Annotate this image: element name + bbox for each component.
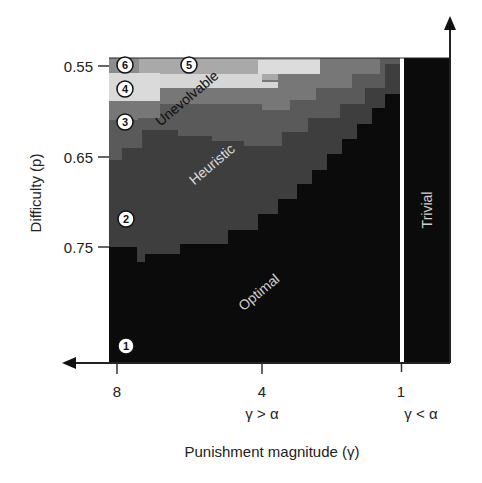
marker-2: 2 bbox=[118, 211, 134, 227]
unevolvable-lightest-region-top bbox=[258, 60, 320, 74]
svg-text:5: 5 bbox=[186, 59, 192, 71]
marker-1: 1 bbox=[118, 338, 134, 354]
x-sublabel-gamma-gt-alpha: γ > α bbox=[245, 405, 279, 422]
phase-diagram-chart: 0.55 0.65 0.75 8 4 1 γ > α γ < α Punishm… bbox=[0, 0, 482, 483]
x-axis-arrow-icon bbox=[62, 357, 76, 369]
x-sublabel-gamma-lt-alpha: γ < α bbox=[404, 405, 438, 422]
marker-6: 6 bbox=[117, 57, 133, 73]
y-tick-label-075: 0.75 bbox=[64, 239, 93, 256]
x-tick-label-8: 8 bbox=[113, 383, 121, 400]
svg-text:3: 3 bbox=[122, 116, 128, 128]
marker-4: 4 bbox=[117, 81, 133, 97]
y-axis-arrow-icon bbox=[444, 16, 456, 30]
svg-text:2: 2 bbox=[123, 213, 129, 225]
svg-text:6: 6 bbox=[122, 59, 128, 71]
marker-3: 3 bbox=[117, 114, 133, 130]
y-tick-label-065: 0.65 bbox=[64, 149, 93, 166]
gamma-alpha-divider bbox=[400, 58, 404, 363]
svg-text:1: 1 bbox=[123, 340, 129, 352]
marker-5: 5 bbox=[181, 57, 197, 73]
y-tick-label-055: 0.55 bbox=[64, 58, 93, 75]
label-trivial: Trivial bbox=[419, 192, 435, 229]
x-tick-label-1: 1 bbox=[397, 383, 405, 400]
x-axis-title: Punishment magnitude (γ) bbox=[184, 443, 359, 460]
svg-text:4: 4 bbox=[122, 83, 129, 95]
x-tick-label-4: 4 bbox=[258, 383, 266, 400]
y-axis-title: Difficulty (p) bbox=[27, 154, 44, 233]
